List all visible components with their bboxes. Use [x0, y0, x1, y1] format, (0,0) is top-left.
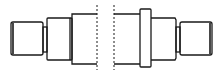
right-end-stub [180, 22, 212, 55]
right-body [114, 14, 140, 64]
shaft-drawing [0, 0, 218, 75]
shaft-diagram: Stepped shaft (broken view) [0, 0, 218, 75]
collar [140, 9, 151, 67]
left-end-stub [11, 22, 43, 55]
right-step [151, 18, 176, 60]
left-body [72, 14, 97, 64]
left-step [47, 18, 72, 60]
